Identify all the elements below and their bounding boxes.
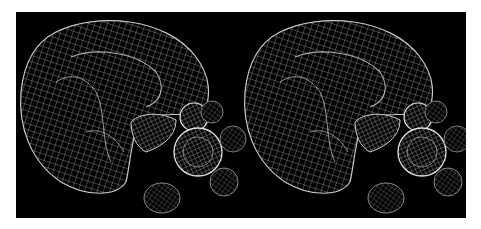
left-eye-view bbox=[21, 21, 246, 213]
stereo-figure-panel bbox=[16, 12, 466, 218]
stereo-figure bbox=[16, 12, 466, 218]
right-eye-view bbox=[245, 21, 466, 213]
